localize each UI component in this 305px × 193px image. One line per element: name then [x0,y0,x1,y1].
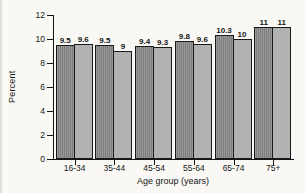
x-category-label-35-44: 35-44 [95,164,133,173]
bar-chart: Percent 9.59.616-349.5935-449.49.345-549… [0,0,305,193]
value-label-series-1-55-64: 9.8 [179,32,190,41]
bar-group-45-54: 9.49.345-54 [135,15,173,159]
bar-group-65-74: 10.31065-74 [215,15,253,159]
value-label-series-2-45-54: 9.3 [157,38,168,47]
bar-group-16-34: 9.59.616-34 [56,15,94,159]
y-tick-label-6: 6 [23,82,45,92]
bar-series-2-75+: 11 [272,27,291,159]
y-tick-label-2: 2 [23,130,45,140]
bar-group-75+: 111175+ [254,15,292,159]
y-tick-6 [47,87,53,88]
value-label-series-1-75+: 11 [259,18,267,27]
x-category-label-55-64: 55-64 [175,164,213,173]
y-tick-label-12: 12 [23,10,45,20]
y-tick-label-4: 4 [23,106,45,116]
value-label-series-1-45-54: 9.4 [139,37,150,46]
bar-groups: 9.59.616-349.5935-449.49.345-549.89.655-… [54,15,294,159]
y-tick-10 [47,39,53,40]
y-tick-label-8: 8 [23,58,45,68]
bar-series-1-35-44: 9.5 [95,45,114,159]
bar-group-35-44: 9.5935-44 [95,15,133,159]
x-category-label-65-74: 65-74 [215,164,253,173]
plot-area: 9.59.616-349.5935-449.49.345-549.89.655-… [53,15,294,160]
bar-series-2-16-34: 9.6 [74,44,93,159]
x-category-label-45-54: 45-54 [135,164,173,173]
bar-series-2-65-74: 10 [233,39,252,159]
y-tick-label-0: 0 [23,154,45,164]
value-label-series-1-35-44: 9.5 [99,36,110,45]
page-edge-artifact [0,0,2,193]
bar-series-1-65-74: 10.3 [215,35,234,159]
value-label-series-2-16-34: 9.6 [78,35,89,44]
value-label-series-2-65-74: 10 [238,30,247,39]
y-tick-2 [47,135,53,136]
bar-series-1-55-64: 9.8 [175,41,194,159]
x-category-label-16-34: 16-34 [56,164,94,173]
bar-series-2-45-54: 9.3 [153,47,172,159]
bar-series-2-55-64: 9.6 [193,44,212,159]
y-tick-label-10: 10 [23,34,45,44]
y-tick-4 [47,111,53,112]
value-label-series-2-55-64: 9.6 [197,35,208,44]
bar-group-55-64: 9.89.655-64 [175,15,213,159]
bar-series-1-16-34: 9.5 [56,45,75,159]
value-label-series-1-16-34: 9.5 [60,36,71,45]
value-label-series-1-65-74: 10.3 [216,26,232,35]
bar-series-2-35-44: 9 [113,51,132,159]
bar-series-1-45-54: 9.4 [135,46,154,159]
x-axis-title: Age group (years) [53,176,293,186]
bar-series-1-75+: 11 [254,27,273,159]
x-category-label-75+: 75+ [254,164,292,173]
value-label-series-2-35-44: 9 [121,42,125,51]
y-tick-0 [47,159,53,160]
value-label-series-2-75+: 11 [277,18,285,27]
y-tick-8 [47,63,53,64]
y-axis-title: Percent [7,56,18,118]
y-tick-12 [47,15,53,16]
